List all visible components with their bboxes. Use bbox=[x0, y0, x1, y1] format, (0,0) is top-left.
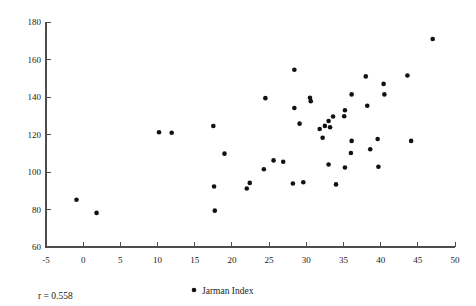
y-tick-label: 80 bbox=[32, 205, 42, 215]
data-point bbox=[74, 197, 79, 202]
y-tick-label: 60 bbox=[32, 242, 42, 252]
data-point bbox=[271, 158, 276, 163]
data-point bbox=[323, 124, 328, 129]
data-point bbox=[292, 106, 297, 111]
data-point bbox=[291, 181, 296, 186]
x-tick-label: 50 bbox=[451, 255, 461, 265]
y-tick-label: 160 bbox=[28, 55, 42, 65]
x-tick-label: 45 bbox=[413, 255, 423, 265]
data-point bbox=[308, 99, 313, 104]
data-point bbox=[292, 68, 297, 73]
scatter-plot-canvas: 6080100120140160180 -5051015202530354045… bbox=[0, 0, 476, 306]
scatter-chart-figure: 6080100120140160180 -5051015202530354045… bbox=[0, 0, 476, 306]
y-tick-label: 120 bbox=[28, 130, 42, 140]
data-points-group bbox=[74, 37, 435, 215]
data-point bbox=[263, 96, 268, 101]
data-point bbox=[342, 114, 347, 119]
x-tick-label: 0 bbox=[81, 255, 86, 265]
data-point bbox=[212, 184, 217, 189]
x-tick-label: 20 bbox=[227, 255, 237, 265]
y-tick-label: 100 bbox=[28, 167, 42, 177]
data-point bbox=[334, 182, 339, 187]
data-point bbox=[375, 137, 380, 142]
x-tick-label: 35 bbox=[339, 255, 349, 265]
data-point bbox=[326, 119, 331, 124]
data-point bbox=[365, 104, 370, 109]
x-tick-label: 40 bbox=[376, 255, 386, 265]
x-axis-ticks: -505101520253035404550 bbox=[42, 242, 460, 265]
data-point bbox=[169, 131, 174, 136]
x-tick-label: 30 bbox=[302, 255, 312, 265]
data-point bbox=[331, 114, 336, 119]
data-point bbox=[244, 186, 249, 191]
correlation-annotation: r = 0.558 bbox=[38, 291, 73, 301]
data-point bbox=[328, 125, 333, 130]
legend-label: Jarman Index bbox=[202, 286, 254, 296]
data-point bbox=[211, 124, 216, 129]
x-tick-label: 25 bbox=[265, 255, 275, 265]
y-tick-label: 140 bbox=[28, 92, 42, 102]
legend: Jarman Index bbox=[192, 286, 254, 296]
data-point bbox=[297, 121, 302, 126]
data-point bbox=[343, 165, 348, 170]
data-point bbox=[381, 82, 386, 87]
data-point bbox=[157, 130, 162, 135]
data-point bbox=[343, 108, 348, 113]
data-point bbox=[94, 211, 99, 216]
y-tick-label: 180 bbox=[28, 17, 42, 27]
data-point bbox=[349, 92, 354, 97]
legend-marker-icon bbox=[192, 288, 197, 293]
data-point bbox=[301, 180, 306, 185]
data-point bbox=[376, 164, 381, 169]
data-point bbox=[320, 135, 325, 140]
x-tick-label: 5 bbox=[118, 255, 123, 265]
data-point bbox=[349, 151, 354, 156]
data-point bbox=[430, 37, 435, 42]
data-point bbox=[368, 147, 373, 152]
data-point bbox=[222, 151, 227, 156]
x-tick-label: 15 bbox=[190, 255, 200, 265]
x-tick-label: 10 bbox=[153, 255, 163, 265]
data-point bbox=[326, 162, 331, 167]
data-point bbox=[363, 74, 368, 79]
axes-group bbox=[46, 22, 455, 247]
data-point bbox=[409, 139, 414, 144]
data-point bbox=[281, 159, 286, 164]
data-point bbox=[262, 167, 267, 172]
y-axis-ticks: 6080100120140160180 bbox=[28, 17, 52, 252]
data-point bbox=[349, 139, 354, 144]
data-point bbox=[213, 208, 218, 213]
axis-frame bbox=[46, 22, 455, 247]
data-point bbox=[317, 127, 322, 132]
data-point bbox=[247, 181, 252, 186]
x-tick-label: -5 bbox=[42, 255, 50, 265]
data-point bbox=[405, 73, 410, 78]
data-point bbox=[382, 92, 387, 97]
